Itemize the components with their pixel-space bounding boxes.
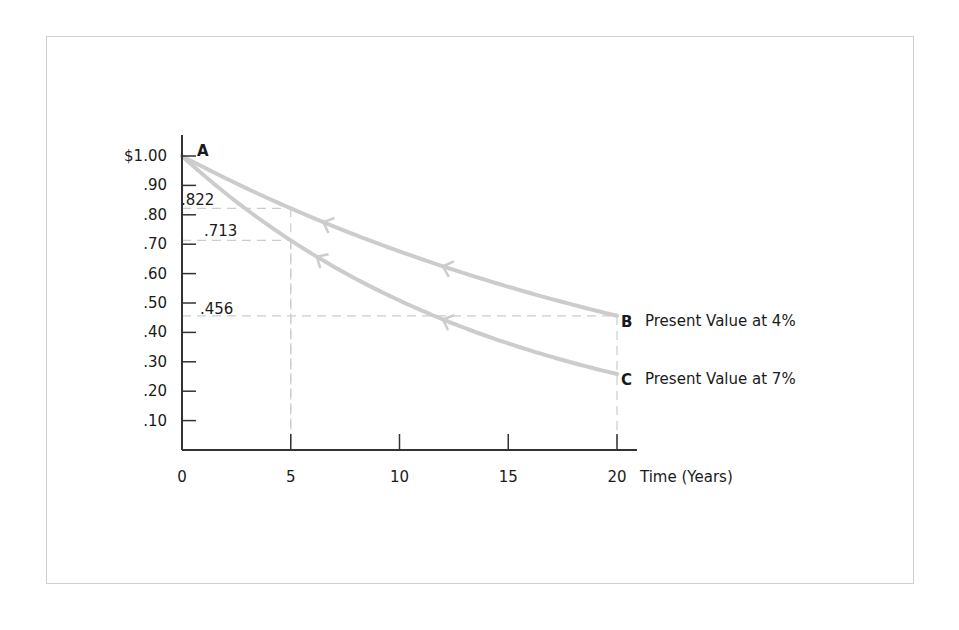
point-label-c: C	[621, 371, 632, 389]
curves	[182, 156, 617, 374]
y-tick-label: .40	[143, 323, 167, 341]
point-label-b: B	[621, 313, 632, 331]
value-annotation: .713	[204, 222, 237, 240]
dashed-guides	[182, 208, 617, 450]
y-tick-label: .10	[143, 412, 167, 430]
y-tick-label: .30	[143, 353, 167, 371]
y-tick-label: .20	[143, 382, 167, 400]
x-tick-label: 5	[286, 468, 296, 486]
x-tick-label: 0	[177, 468, 187, 486]
value-annotation: .456	[200, 300, 233, 318]
point-label-a: A	[197, 142, 209, 160]
value-annotation: .822	[181, 191, 214, 209]
present-value-chart: .10.20.30.40.50.60.70.80.90$1.0005101520…	[0, 0, 959, 630]
y-tick-label: .50	[143, 294, 167, 312]
y-tick-label: .90	[143, 176, 167, 194]
x-tick-label: 15	[499, 468, 518, 486]
y-tick-label: .70	[143, 235, 167, 253]
y-tick-label: .80	[143, 206, 167, 224]
series-label: Present Value at 7%	[645, 370, 796, 388]
x-tick-label: 20	[607, 468, 626, 486]
x-tick-label: 10	[390, 468, 409, 486]
x-axis-label: Time (Years)	[639, 468, 733, 486]
axes	[182, 135, 637, 450]
y-tick-label: .60	[143, 265, 167, 283]
curve-b	[182, 156, 617, 316]
series-label: Present Value at 4%	[645, 312, 796, 330]
y-tick-label: $1.00	[124, 147, 167, 165]
